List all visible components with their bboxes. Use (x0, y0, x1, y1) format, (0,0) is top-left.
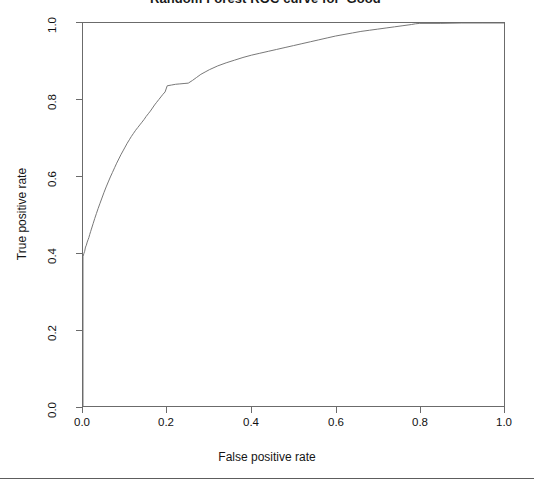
y-tick-label-0: 0.0 (32, 400, 72, 414)
y-tick-label-3-text: 0.6 (46, 171, 58, 187)
y-tick-label-2-text: 0.4 (46, 248, 58, 264)
footer-divider (0, 478, 534, 479)
chart-title: Random Forest ROC curve for 'Good' (0, 0, 534, 6)
y-tick-label-4-text: 0.8 (46, 94, 58, 110)
y-tick-label-5: 1.0 (32, 15, 72, 29)
y-tick-label-1-text: 0.2 (46, 325, 58, 341)
roc-curve-plot (83, 23, 504, 406)
x-tick-label-5: 1.0 (474, 416, 534, 428)
x-tick-label-3: 0.6 (306, 416, 366, 428)
x-tick-mark-0 (82, 407, 83, 413)
x-axis-title: False positive rate (0, 450, 534, 464)
x-tick-label-2: 0.4 (221, 416, 281, 428)
x-tick-mark-1 (166, 407, 167, 413)
x-tick-mark-4 (420, 407, 421, 413)
x-tick-mark-5 (504, 407, 505, 413)
roc-curve-line (83, 23, 504, 406)
y-tick-label-1: 0.2 (32, 323, 72, 337)
x-tick-label-4: 0.8 (390, 416, 450, 428)
y-tick-label-4: 0.8 (32, 92, 72, 106)
y-tick-label-2: 0.4 (32, 246, 72, 260)
x-tick-label-1: 0.2 (136, 416, 196, 428)
y-axis-title: True positive rate (15, 144, 29, 284)
x-tick-label-0: 0.0 (52, 416, 112, 428)
chart-page: Random Forest ROC curve for 'Good' 0.0 0… (0, 0, 534, 492)
y-tick-label-5-text: 1.0 (46, 17, 58, 33)
plot-area (82, 22, 505, 407)
y-tick-label-3: 0.6 (32, 169, 72, 183)
x-tick-mark-2 (251, 407, 252, 413)
x-tick-mark-3 (336, 407, 337, 413)
